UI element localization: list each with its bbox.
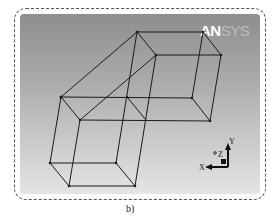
triad-y-label: Y — [229, 137, 235, 146]
wireframe-model — [0, 0, 273, 224]
triad-x-label: X — [199, 163, 205, 172]
triad-z-label: Z — [218, 150, 223, 159]
figure-caption: b) — [126, 203, 134, 214]
